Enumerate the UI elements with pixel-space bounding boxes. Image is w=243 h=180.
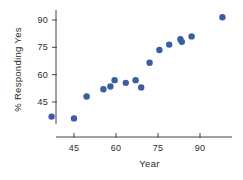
x-axis-tick-label: 60 xyxy=(111,143,121,153)
y-axis-tick-label: 75 xyxy=(26,42,48,52)
data-point xyxy=(100,86,106,92)
data-point xyxy=(146,60,152,66)
plot-area xyxy=(0,0,243,180)
plot-canvas xyxy=(0,0,243,180)
data-point xyxy=(138,84,144,90)
data-point xyxy=(219,14,225,20)
data-point xyxy=(48,113,54,119)
data-point xyxy=(179,39,185,45)
data-point xyxy=(111,77,117,83)
x-axis-tick-label: 45 xyxy=(69,143,79,153)
data-point xyxy=(123,80,129,86)
x-axis-title-text: Year xyxy=(139,158,159,169)
data-point xyxy=(156,47,162,53)
y-axis-tick-label: 60 xyxy=(26,70,48,80)
data-point xyxy=(188,33,194,39)
y-axis-tick-label: 45 xyxy=(26,97,48,107)
data-point xyxy=(107,83,113,89)
y-axis-title: % Responding Yes xyxy=(12,15,23,125)
data-point xyxy=(132,77,138,83)
scatter-plot-figure: % Responding Yes Year 4560759045607590 xyxy=(0,0,243,180)
x-axis-tick-label: 90 xyxy=(195,143,205,153)
y-axis-tick-label: 90 xyxy=(26,15,48,25)
x-axis-title: Year xyxy=(0,158,243,169)
x-axis-tick-label: 75 xyxy=(153,143,163,153)
data-point xyxy=(71,115,77,121)
data-point xyxy=(166,41,172,47)
data-point xyxy=(83,93,89,99)
